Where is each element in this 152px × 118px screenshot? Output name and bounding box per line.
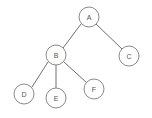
tree-edge-a-b bbox=[63, 24, 81, 48]
tree-node-label-a: A bbox=[87, 14, 92, 21]
tree-node-b[interactable]: B bbox=[46, 45, 66, 65]
tree-diagram-canvas: ABCDEF bbox=[0, 0, 152, 118]
tree-node-label-d: D bbox=[21, 91, 26, 98]
tree-node-label-c: C bbox=[126, 53, 131, 60]
tree-edge-b-f bbox=[64, 62, 87, 83]
tree-node-label-b: B bbox=[54, 52, 59, 59]
tree-node-e[interactable]: E bbox=[46, 88, 66, 108]
tree-node-label-e: E bbox=[54, 95, 59, 102]
tree-diagram-svg: ABCDEF bbox=[0, 0, 152, 118]
tree-edge-a-c bbox=[96, 24, 122, 49]
tree-node-a[interactable]: A bbox=[79, 7, 99, 27]
tree-node-d[interactable]: D bbox=[14, 84, 34, 104]
tree-node-c[interactable]: C bbox=[119, 46, 139, 66]
edges-group bbox=[32, 24, 122, 88]
tree-node-label-f: F bbox=[92, 86, 96, 93]
tree-edge-b-d bbox=[32, 62, 48, 87]
tree-node-f[interactable]: F bbox=[84, 79, 104, 99]
nodes-group: ABCDEF bbox=[14, 7, 139, 108]
